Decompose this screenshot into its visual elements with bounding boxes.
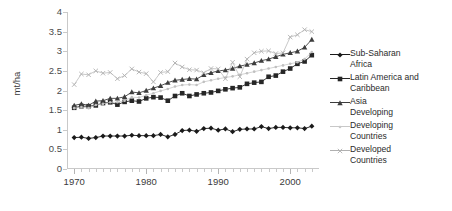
data-point-dot xyxy=(195,84,198,87)
data-point-square xyxy=(137,99,142,104)
x-tick-mark-major xyxy=(218,169,219,174)
data-point-diamond xyxy=(158,132,163,137)
data-point-diamond xyxy=(208,126,213,131)
data-point-dot xyxy=(231,75,234,78)
x-tick-mark xyxy=(132,169,133,172)
y-tick-mark xyxy=(63,149,67,150)
legend-label: Asia Developing xyxy=(350,96,393,117)
x-tick-mark xyxy=(125,169,126,172)
y-tick-label: 0.5 xyxy=(49,144,62,154)
data-point-dot xyxy=(123,99,126,102)
x-tick-mark xyxy=(240,169,241,172)
y-tick-label: 4 xyxy=(57,7,62,17)
data-point-diamond xyxy=(280,125,285,130)
legend-marker-triangle-icon xyxy=(330,97,350,108)
legend-marker-cross-icon xyxy=(330,145,350,156)
series-latin-america-and-caribbean xyxy=(72,53,314,110)
data-point-dot xyxy=(167,88,170,91)
data-point-diamond xyxy=(180,128,185,133)
y-tick-mark xyxy=(63,12,67,13)
data-point-diamond xyxy=(79,135,84,140)
x-tick-mark xyxy=(261,169,262,172)
data-point-dot xyxy=(152,92,155,95)
legend-item[interactable]: Developing Countries xyxy=(330,120,450,141)
data-point-square xyxy=(274,73,279,78)
data-point-dot xyxy=(282,64,285,67)
x-tick-label: 1990 xyxy=(198,176,238,187)
data-point-dot xyxy=(267,67,270,70)
legend-item[interactable]: Developed Countries xyxy=(330,144,450,165)
data-point-diamond xyxy=(252,126,257,131)
x-tick-label: 1970 xyxy=(54,176,94,187)
data-point-dot xyxy=(210,79,213,82)
data-point-square xyxy=(288,66,293,71)
data-point-square xyxy=(187,94,192,99)
data-point-dot xyxy=(253,70,256,73)
y-axis-title: mt/ha xyxy=(11,54,22,114)
series-layer xyxy=(67,12,319,169)
data-point-dot xyxy=(246,72,249,75)
data-point-cross xyxy=(310,29,314,33)
chart-legend: Sub-Saharan AfricaLatin America and Cari… xyxy=(330,48,450,168)
data-point-diamond xyxy=(309,124,314,129)
data-point-dot xyxy=(131,96,134,99)
data-point-diamond xyxy=(201,126,206,131)
legend-marker-square-icon xyxy=(330,73,350,84)
data-point-diamond xyxy=(244,126,249,131)
x-tick-mark xyxy=(197,169,198,172)
data-point-diamond xyxy=(93,135,98,140)
x-tick-mark xyxy=(139,169,140,172)
data-point-square xyxy=(144,96,149,101)
x-tick-mark xyxy=(211,169,212,172)
data-point-triangle xyxy=(79,101,84,106)
data-point-diamond xyxy=(151,133,156,138)
chart-root: 00.511.522.533.54 mt/ha 1970198019902000… xyxy=(0,0,452,211)
legend-marker-diamond-icon xyxy=(330,49,350,60)
data-point-dot xyxy=(95,104,98,107)
data-point-diamond xyxy=(302,126,307,131)
data-point-triangle xyxy=(122,94,127,99)
data-point-cross xyxy=(288,35,292,39)
legend-item[interactable]: Sub-Saharan Africa xyxy=(330,48,450,69)
data-point-square xyxy=(281,69,286,74)
series-asia-developing xyxy=(72,37,315,108)
data-point-dot xyxy=(303,58,306,61)
data-point-cross xyxy=(295,33,299,37)
legend-item[interactable]: Asia Developing xyxy=(330,96,450,117)
data-point-dot xyxy=(145,94,148,97)
data-point-square xyxy=(216,89,221,94)
data-point-dot xyxy=(217,77,220,80)
data-point-dot xyxy=(289,63,292,66)
plot-area xyxy=(67,12,319,169)
data-point-dot xyxy=(296,61,299,64)
y-tick-label: 2.5 xyxy=(49,66,62,76)
series-developed-countries xyxy=(72,27,314,86)
data-point-square xyxy=(151,95,156,100)
data-point-diamond xyxy=(295,125,300,130)
series-sub-saharan-africa xyxy=(72,124,315,141)
data-point-cross xyxy=(151,80,155,84)
legend-label: Developing Countries xyxy=(350,120,393,141)
data-point-cross xyxy=(130,67,134,71)
data-point-diamond xyxy=(172,132,177,137)
data-point-diamond xyxy=(108,133,113,138)
data-point-diamond xyxy=(273,125,278,130)
data-point-cross xyxy=(173,61,177,65)
legend-label: Latin America and Caribbean xyxy=(350,72,419,93)
x-tick-mark xyxy=(269,169,270,172)
x-tick-mark xyxy=(297,169,298,172)
legend-item[interactable]: Latin America and Caribbean xyxy=(330,72,450,93)
data-point-cross xyxy=(115,77,119,81)
data-point-diamond xyxy=(136,133,141,138)
data-point-dot xyxy=(87,107,90,110)
x-tick-mark xyxy=(182,169,183,172)
data-point-diamond xyxy=(187,128,192,133)
data-point-dot xyxy=(181,84,184,87)
x-tick-mark xyxy=(189,169,190,172)
data-point-dot xyxy=(159,90,162,93)
x-tick-mark xyxy=(247,169,248,172)
y-tick-label: 3 xyxy=(57,46,62,56)
data-point-triangle xyxy=(129,89,134,94)
y-tick-label: 2 xyxy=(57,86,62,96)
data-point-square xyxy=(209,90,214,95)
